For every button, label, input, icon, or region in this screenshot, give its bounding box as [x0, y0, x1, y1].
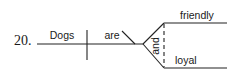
sentence-diagram: 20. Dogs are and friendly loyal	[0, 0, 238, 83]
item-number: 20.	[14, 33, 32, 48]
complement-slash	[122, 31, 135, 44]
complement-word-1: friendly	[180, 9, 215, 21]
subject-word: Dogs	[50, 29, 75, 41]
conjunction-word: and	[149, 37, 161, 55]
verb-word: are	[104, 29, 119, 41]
complement-word-2: loyal	[175, 54, 197, 66]
